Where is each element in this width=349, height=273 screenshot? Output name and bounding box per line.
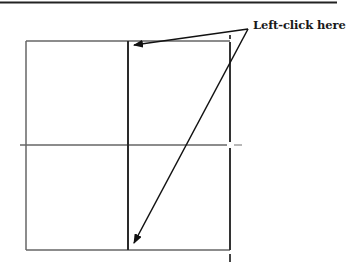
diagram-canvas: Left-click here [0,0,349,273]
annotation-label: Left-click here [253,18,346,32]
